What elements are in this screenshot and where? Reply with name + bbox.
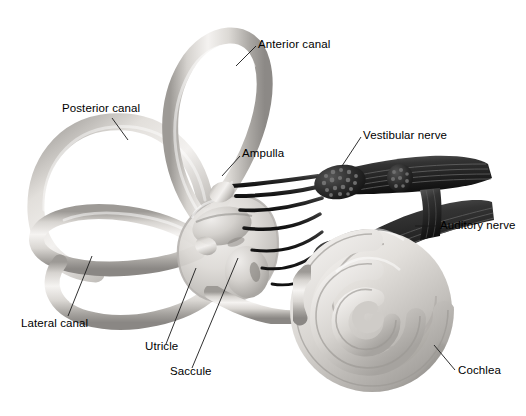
label-cochlea: Cochlea [458,365,501,377]
label-saccule: Saccule [170,366,212,378]
label-posterior-canal: Posterior canal [62,103,140,115]
inner-ear-diagram: Anterior canal Posterior canal Ampulla V… [0,0,526,416]
label-ampulla: Ampulla [242,148,284,160]
label-auditory-nerve: Auditory nerve [440,220,516,232]
label-lateral-canal: Lateral canal [21,318,88,330]
label-vestibular-nerve: Vestibular nerve [363,130,447,142]
label-utricle: Utricle [145,341,178,353]
labyrinth-illustration [0,0,526,416]
label-anterior-canal: Anterior canal [258,39,330,51]
caption-ghost-text [0,404,526,416]
